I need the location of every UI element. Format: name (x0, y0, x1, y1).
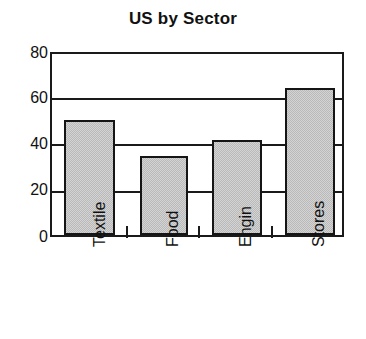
x-axis-tick-3 (271, 226, 273, 238)
x-axis-tick-1 (126, 226, 128, 238)
x-axis-label-textile: Textile (92, 202, 108, 247)
y-axis-tick-label-40: 40 (8, 136, 48, 152)
y-axis-tick-label-60: 60 (8, 90, 48, 106)
y-axis-tick-label-0: 0 (8, 229, 48, 245)
y-axis-tick-label-80: 80 (8, 45, 48, 61)
x-axis-label-stores: Stores (311, 201, 327, 247)
x-axis-label-food: Food (165, 211, 181, 247)
x-axis-label-engin: Engin (238, 206, 254, 247)
y-axis-tick-label-20: 20 (8, 182, 48, 198)
chart-title: US by Sector (0, 9, 366, 29)
bar-chart: US by Sector 80 60 40 20 0 Textile Food … (0, 0, 366, 339)
x-axis-tick-2 (198, 226, 200, 238)
